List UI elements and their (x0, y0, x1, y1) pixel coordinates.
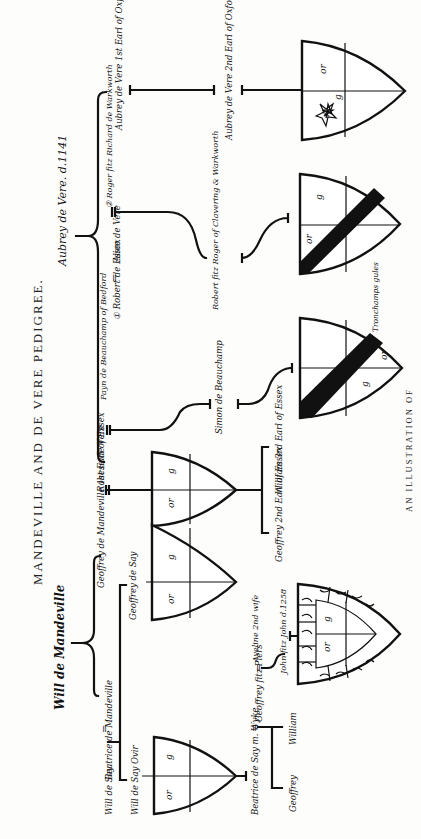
link-payn-to-simon (107, 400, 210, 434)
link-aubrey-2nd-to-shield (242, 86, 302, 94)
shield-say-2: g or (142, 737, 246, 814)
will-de-say-junior: Will de Say Ovir (130, 744, 140, 815)
aubrey-2nd-earl-oxford: Aubrey de Vere 2nd Earl of Oxford (224, 0, 234, 141)
aveline-2nd-wife: Aveline 2nd wife (251, 594, 260, 663)
svg-text:or: or (379, 350, 389, 360)
svg-text:g: g (166, 554, 176, 560)
root-aubrey-de-vere: Aubrey de Vere. d.1141 (56, 135, 69, 267)
svg-text:g: g (166, 468, 176, 474)
marriage-symbol-beatrice: = (99, 725, 110, 733)
svg-text:or: or (166, 498, 176, 508)
svg-text:A: A (321, 109, 331, 117)
page-title: MANDEVILLE AND DE VERE PEDIGREE. (30, 278, 45, 585)
svg-text:or: or (304, 234, 314, 244)
roger-fitz-richard: ② Roger fitz Richard de Warkworth (105, 64, 114, 208)
svg-text:g: g (360, 381, 370, 387)
payn-de-beauchamp: Payn de Beauchamp of Bedford (99, 273, 108, 401)
shield-say-1: g or (146, 525, 236, 620)
william: William (288, 712, 298, 745)
link-alice-to-robert-fitz-roger (112, 208, 206, 258)
link-say2-to-beatrice (236, 772, 246, 780)
link-aubrey-1st-to-2nd (130, 86, 214, 94)
svg-text:g: g (164, 754, 174, 760)
pedigree-diagram: MANDEVILLE AND DE VERE PEDIGREE. AN ILLU… (0, 0, 421, 839)
robert-fitz-roger: Robert fitz Roger of Clavering & Warkwor… (211, 131, 220, 311)
geoffrey-2nd-earl-essex: Geoffrey 2nd Earl of Essex (274, 447, 284, 562)
will-de-say: Will de Say (104, 766, 114, 815)
simon-de-beauchamp: Simon de Beauchamp (214, 340, 224, 434)
svg-text:or: or (318, 64, 328, 74)
svg-text:or: or (322, 642, 332, 652)
beauchamp-note: Tronchamps gules (371, 262, 380, 332)
link-robert-fitz-roger-to-shield (242, 214, 288, 262)
shield-fitz-john: g or (298, 584, 400, 684)
john-fitz-john: John fitz John d.1258 (279, 589, 288, 676)
geoffrey-de-mandeville-1st-earl: Geoffrey de Mandeville 1st Earl of Essex (96, 412, 106, 588)
geoffrey: Geoffrey (288, 775, 298, 812)
page-caption: AN ILLUSTRATION OF (404, 388, 414, 512)
shield-clavering: or g (300, 174, 400, 274)
robert-de-essex: ① Robert de Essex (112, 239, 122, 320)
aubrey-1st-earl-oxford: Aubrey de Vere 1st Earl of Oxford (114, 0, 124, 131)
geoffrey-de-say: Geoffrey de Say (128, 551, 138, 620)
shield-beauchamp: g or Tronchamps gules (300, 262, 402, 418)
svg-text:or: or (164, 790, 174, 800)
svg-text:g: g (314, 194, 324, 200)
link-essex-sons (236, 447, 268, 533)
link-fitz-piers-children (258, 727, 282, 788)
svg-text:or: or (166, 594, 176, 604)
root-will-de-mandeville: Will de Mandeville (53, 584, 67, 710)
svg-text:g: g (333, 94, 343, 100)
svg-text:g: g (322, 616, 332, 622)
shield-de-vere-oxford: or g A (302, 41, 405, 140)
pedigree-page: MANDEVILLE AND DE VERE PEDIGREE. AN ILLU… (0, 0, 421, 839)
